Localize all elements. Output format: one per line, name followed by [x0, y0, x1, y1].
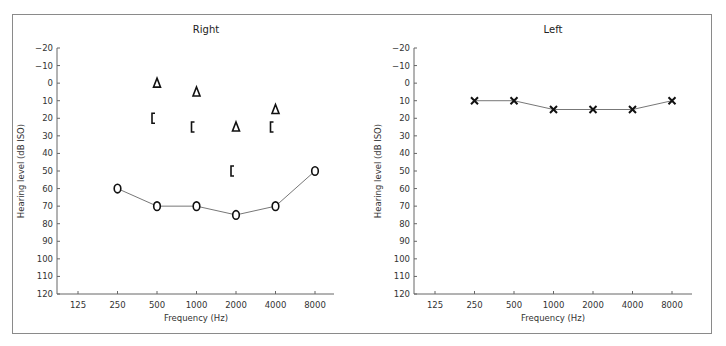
- y-tick-label: 110: [37, 271, 53, 281]
- x-tick-label: 500: [506, 300, 522, 310]
- air-conduction-marker: [233, 211, 240, 220]
- y-tick-label: 60: [399, 184, 410, 194]
- triangle-marker: [193, 87, 200, 96]
- x-tick-label: 1000: [186, 300, 208, 310]
- y-tick-label: 60: [42, 184, 53, 194]
- x-tick-label: 1000: [543, 300, 565, 310]
- y-tick-label: 0: [405, 78, 410, 88]
- air-conduction-marker: [154, 202, 161, 211]
- y-tick-label: 0: [48, 78, 53, 88]
- y-tick-label: 70: [399, 201, 410, 211]
- x-tick-label: 125: [427, 300, 443, 310]
- air-conduction-marker: [272, 202, 279, 211]
- air-conduction-marker: [114, 184, 121, 193]
- series-line: [475, 101, 673, 110]
- series-line: [118, 171, 316, 215]
- x-tick-label: 8000: [304, 300, 326, 310]
- y-tick-label: 50: [399, 166, 410, 176]
- y-tick-label: 40: [42, 148, 53, 158]
- x-tick-label: 125: [70, 300, 86, 310]
- y-tick-label: 10: [42, 96, 53, 106]
- y-tick-label: 20: [42, 113, 53, 123]
- audiogram-figure: Right−20−1001020304050607080901001101201…: [0, 0, 726, 346]
- air-conduction-marker: [193, 202, 200, 211]
- y-tick-label: 90: [42, 236, 53, 246]
- y-tick-label: −10: [392, 61, 410, 71]
- y-axis-title: Hearing level (dB ISO): [16, 124, 26, 218]
- air-conduction-marker: [312, 167, 319, 176]
- y-tick-label: 80: [399, 219, 410, 229]
- x-tick-label: 8000: [661, 300, 683, 310]
- y-tick-label: 110: [394, 271, 410, 281]
- x-marker: [669, 97, 676, 104]
- triangle-marker: [154, 78, 161, 87]
- triangle-marker: [272, 105, 279, 114]
- x-tick-label: 4000: [265, 300, 287, 310]
- y-tick-label: 50: [42, 166, 53, 176]
- y-tick-label: 30: [399, 131, 410, 141]
- x-tick-label: 500: [149, 300, 165, 310]
- y-tick-label: 80: [42, 219, 53, 229]
- y-tick-label: 70: [42, 201, 53, 211]
- y-tick-label: −10: [35, 61, 53, 71]
- y-tick-label: 120: [37, 289, 53, 299]
- chart-title: Right: [193, 24, 219, 35]
- y-tick-label: 90: [399, 236, 410, 246]
- x-tick-label: 2000: [582, 300, 604, 310]
- y-tick-label: 100: [37, 254, 53, 264]
- bracket-marker: [231, 166, 234, 176]
- chart-title: Left: [544, 24, 563, 35]
- y-tick-label: 20: [399, 113, 410, 123]
- triangle-marker: [233, 122, 240, 131]
- bracket-marker: [271, 122, 274, 132]
- y-tick-label: 10: [399, 96, 410, 106]
- chart-panel-right: Right−20−1001020304050607080901001101201…: [16, 24, 334, 323]
- x-axis-title: Frequency (Hz): [164, 313, 228, 323]
- y-tick-label: 120: [394, 289, 410, 299]
- y-axis-title: Hearing level (dB ISO): [373, 124, 383, 218]
- x-tick-label: 4000: [622, 300, 644, 310]
- y-tick-label: 40: [399, 148, 410, 158]
- y-tick-label: 30: [42, 131, 53, 141]
- bracket-marker: [192, 122, 195, 132]
- x-tick-label: 2000: [225, 300, 247, 310]
- x-axis-title: Frequency (Hz): [521, 313, 585, 323]
- x-tick-label: 250: [109, 300, 125, 310]
- y-tick-label: −20: [35, 43, 53, 53]
- bracket-marker: [152, 113, 155, 123]
- y-tick-label: 100: [394, 254, 410, 264]
- chart-panel-left: Left−20−10010203040506070809010011012012…: [373, 24, 692, 323]
- y-tick-label: −20: [392, 43, 410, 53]
- x-tick-label: 250: [466, 300, 482, 310]
